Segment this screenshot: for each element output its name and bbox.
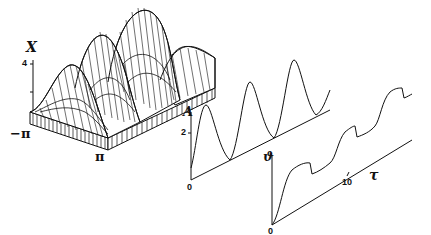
phase-time-tick-10: 10	[342, 178, 352, 187]
surface-x-end: π	[95, 150, 105, 163]
phase-time-label: τ	[369, 168, 378, 182]
surface-tick-4: 4	[22, 59, 27, 68]
amplitude-origin: 0	[187, 183, 192, 192]
figure: X 4 −π π A 2 0 ϑ 0 10 τ	[0, 0, 431, 235]
phase-origin: 0	[268, 227, 273, 235]
surface-x-start: −π	[10, 127, 30, 140]
plots-svg	[0, 0, 431, 235]
surface-plot	[30, 8, 215, 150]
phase-axis-label: ϑ	[263, 150, 274, 163]
surface-axis-label: X	[26, 40, 37, 54]
phase-plot	[272, 88, 412, 225]
amplitude-axis-label: A	[183, 105, 193, 118]
amplitude-tick-2: 2	[181, 128, 186, 137]
